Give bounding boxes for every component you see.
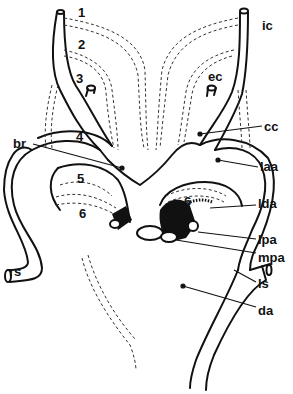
aortic-arch-diagram	[0, 0, 293, 394]
arch-number-6-left: 6	[184, 195, 191, 208]
right-subclavian-vessel	[10, 141, 100, 282]
label-br: br	[13, 137, 26, 150]
label-ec: ec	[208, 70, 222, 83]
label-lpa: lpa	[258, 233, 277, 246]
label-da: da	[258, 304, 273, 317]
arch-number-3: 3	[76, 72, 83, 85]
arch-number-1: 1	[78, 6, 85, 19]
label-ic: ic	[262, 19, 273, 32]
label-cc: cc	[264, 120, 278, 133]
label-ls: ls	[258, 277, 269, 290]
label-laa: laa	[260, 160, 278, 173]
label-rs: rs	[9, 265, 21, 278]
arch-number-2: 2	[78, 38, 85, 51]
label-lda: lda	[258, 197, 277, 210]
label-mpa: mpa	[258, 251, 285, 264]
arch-number-4: 4	[76, 130, 83, 143]
arch-number-5: 5	[77, 172, 84, 185]
arch-number-6-right: 6	[79, 207, 86, 220]
descending-aorta	[190, 270, 238, 388]
